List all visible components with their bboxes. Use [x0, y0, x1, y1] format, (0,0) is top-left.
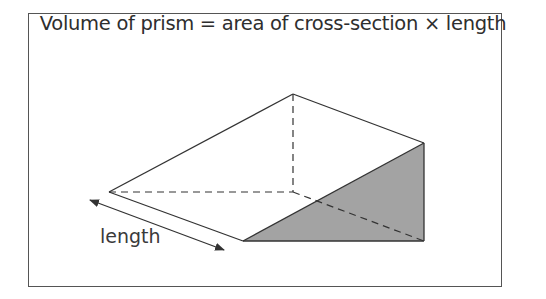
length-label: length	[100, 225, 161, 247]
prism-diagram	[0, 0, 546, 299]
